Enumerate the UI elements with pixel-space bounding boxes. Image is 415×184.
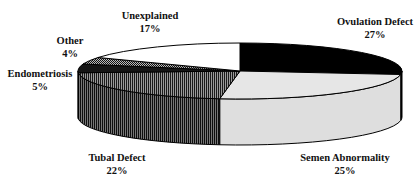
label-endometriosis-pct: 5% [0,80,80,93]
label-other-pct: 4% [50,47,90,60]
label-unexplained: Unexplained 17% [110,9,190,35]
label-other-name: Other [50,34,90,47]
label-tubal-defect-name: Tubal Defect [82,151,152,164]
label-ovulation-defect-name: Ovulation Defect [330,15,415,28]
label-semen-abnormality: Semen Abnormality 25% [290,151,400,177]
label-endometriosis: Endometriosis 5% [0,67,80,93]
label-unexplained-pct: 17% [110,22,190,35]
label-endometriosis-name: Endometriosis [0,67,80,80]
label-ovulation-defect: Ovulation Defect 27% [330,15,415,41]
label-tubal-defect-pct: 22% [82,164,152,177]
label-semen-abnormality-name: Semen Abnormality [290,151,400,164]
label-ovulation-defect-pct: 27% [330,28,415,41]
label-unexplained-name: Unexplained [110,9,190,22]
pie-slice-0 [240,43,402,75]
label-other: Other 4% [50,34,90,60]
label-semen-abnormality-pct: 25% [290,164,400,177]
pie-group [78,43,402,145]
label-tubal-defect: Tubal Defect 22% [82,151,152,177]
